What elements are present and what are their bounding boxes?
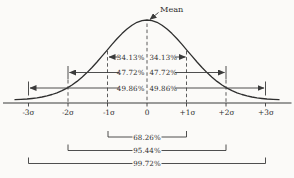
normal-distribution-figure: Mean 34.13% 34.13% 47.72% 47.72% 49.86% … [0,0,294,178]
half-area-left-label: 49.86% [117,84,145,93]
x-tick-label: +1σ [180,108,196,117]
x-tick-label: -2σ [62,108,74,117]
cumulative-bracket-label: 95.44% [133,146,161,155]
cumulative-bracket-1-sigma: 68.26% [108,131,187,142]
half-area-left-label: 47.72% [117,68,145,77]
half-area-left-label: 34.13% [117,53,145,62]
x-tick-label: -1σ [103,108,115,117]
half-area-right-label: 34.13% [150,53,178,62]
half-area-right-label: 49.86% [150,84,178,93]
x-tick-label: +3σ [258,108,274,117]
mean-label: Mean [160,4,184,14]
cumulative-bracket-label: 99.72% [133,159,161,168]
x-tick-label: 0 [145,108,150,117]
mean-arrow [150,13,159,20]
cumulative-bracket-label: 68.26% [133,133,161,142]
x-tick-label: +2σ [219,108,235,117]
x-tick-label: -3σ [22,108,34,117]
half-area-right-label: 47.72% [150,68,178,77]
normal-distribution-chart: Mean 34.13% 34.13% 47.72% 47.72% 49.86% … [0,0,294,178]
cumulative-bracket-2-sigma: 95.44% [68,145,226,156]
cumulative-bracket-3-sigma: 99.72% [29,158,266,169]
x-axis-labels: -3σ -2σ -1σ 0 +1σ +2σ +3σ [22,108,274,117]
